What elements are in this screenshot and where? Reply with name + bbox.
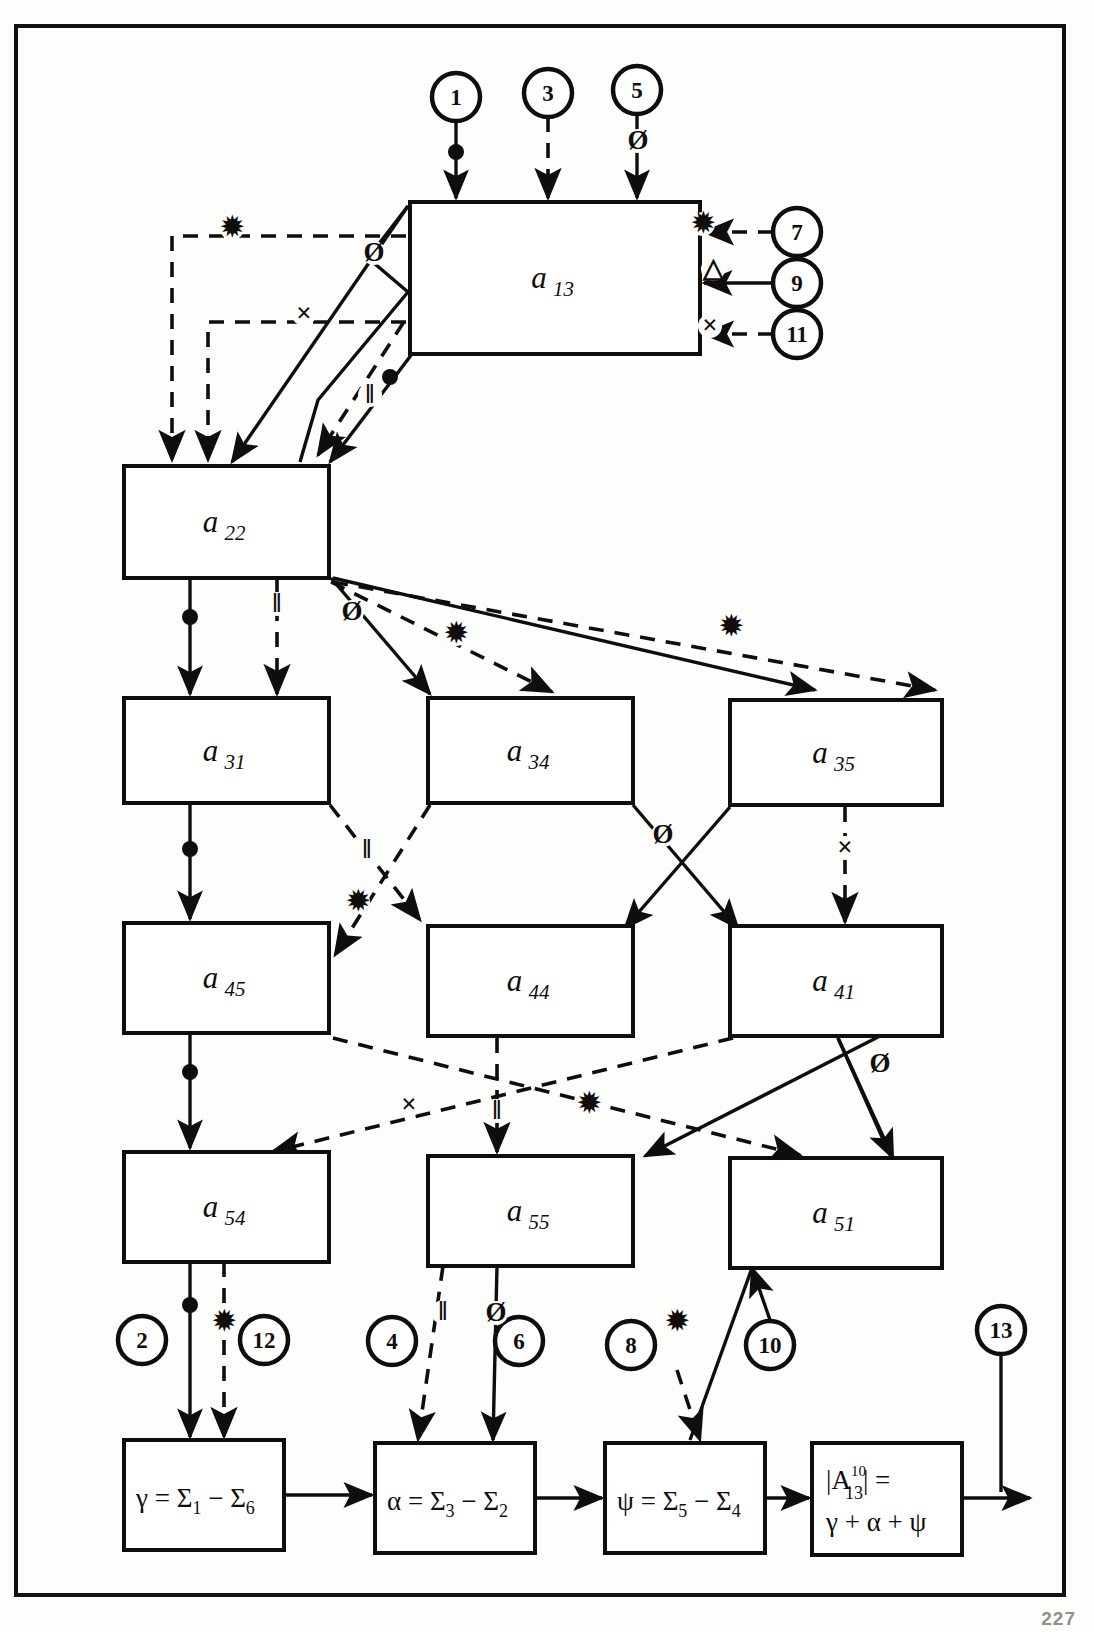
junction-dot-tag1 [448,144,464,160]
block-label: a [531,260,547,295]
process-block-a54[interactable]: a54 [124,1152,329,1262]
process-block-a35[interactable]: a35 [730,700,942,805]
marker-glyph: ✹ [691,208,715,238]
signal-tag-13[interactable]: 13 [977,1306,1025,1354]
marker-glyph: × [837,832,852,862]
edge-marker-phi: Ø [362,237,386,267]
process-block-a51[interactable]: a51 [730,1158,942,1268]
signal-tag-9[interactable]: 9 [773,259,821,307]
signal-tag-1[interactable]: 1 [432,73,480,121]
marker-glyph: ✹ [212,1306,236,1336]
marker-glyph: × [702,310,717,340]
process-block-a34[interactable]: a34 [428,698,633,803]
tag-number: 9 [791,271,803,296]
edge-marker-asterisk: ✹ [691,208,716,238]
edge-marker-asterisk: ✹ [665,1306,690,1336]
edge-marker-asterisk: ✹ [346,886,371,916]
process-block-a31[interactable]: a31 [124,698,329,803]
result-line-2: γ + α + ψ [825,1507,927,1537]
block-label: a [507,963,523,998]
tag-number: 8 [625,1333,637,1358]
tag-number: 5 [631,78,643,103]
edge-marker-asterisk: ✹ [220,212,245,242]
edge-a22-to-a35 [333,578,815,690]
marker-glyph: ✹ [577,1088,601,1118]
block-label: a [812,735,828,770]
marker-glyph: ✹ [346,886,370,916]
formula-block-result[interactable]: |A1013| =γ + α + ψ [812,1443,962,1555]
process-block-a13[interactable]: a13 [410,202,700,354]
diagram-canvas: a13a22a31a34a35a45a44a41a54a55a51 γ = Σ1… [0,0,1094,1632]
formula-block-alpha[interactable]: α = Σ3 − Σ2 [375,1443,535,1553]
block-label-subscript: 35 [833,752,855,776]
block-layer: a13a22a31a34a35a45a44a41a54a55a51 [124,202,942,1268]
marker-glyph: ✹ [719,611,743,641]
signal-tag-5[interactable]: 5 [613,66,661,114]
block-label-subscript: 31 [224,750,246,774]
marker-glyph: Ø [869,1048,890,1078]
block-label-subscript: 55 [529,1210,550,1234]
signal-tag-10[interactable]: 10 [746,1321,794,1369]
process-block-a44[interactable]: a44 [428,926,633,1036]
edge-marker-double-bar: ‖ [265,588,289,618]
marker-glyph: × [401,1089,416,1119]
edge-marker-phi: Ø [626,125,650,155]
edge-a35-to-a44 [625,807,730,928]
marker-glyph: Ø [627,125,648,155]
block-label-subscript: 44 [529,980,551,1004]
signal-tag-12[interactable]: 12 [240,1316,288,1364]
edge-marker-double-bar: ‖ [358,379,382,409]
edge-marker-phi: Ø [484,1297,508,1327]
junction-dot-a54 [182,1297,198,1313]
edge-a55-to-alpha-dashed [418,1266,443,1440]
marker-glyph: ‖ [493,1095,502,1125]
tag-number: 4 [386,1329,398,1354]
edge-tag10-to-a51 [752,1268,770,1320]
tag-number: 12 [253,1328,276,1353]
block-label-subscript: 34 [528,750,551,774]
signal-tag-3[interactable]: 3 [524,69,572,117]
edge-a22-to-a35-dashed [333,582,935,690]
marker-glyph: ‖ [366,379,375,409]
edge-marker-triangle: △ [701,253,725,283]
edge-marker-double-bar: ‖ [355,834,379,864]
junction-dot-a13-lower [382,369,398,385]
block-label: a [203,1189,219,1224]
marker-glyph: ‖ [273,588,282,618]
edge-tag8-to-psi [677,1370,700,1440]
marker-glyph: ✹ [665,1306,689,1336]
tag-number: 11 [786,322,808,347]
process-block-a41[interactable]: a41 [730,926,942,1036]
junction-dot-a22-a31 [182,609,198,625]
edge-a41-to-a54-dashed [272,1038,733,1152]
formula-block-gamma[interactable]: γ = Σ1 − Σ6 [124,1440,284,1550]
signal-tag-8[interactable]: 8 [607,1321,655,1369]
block-label: a [507,1193,523,1228]
tag-number: 2 [136,1328,148,1353]
block-label: a [203,960,219,995]
block-label-subscript: 22 [225,521,247,545]
edge-marker-asterisk: ✹ [444,618,469,648]
tag-number: 10 [759,1333,782,1358]
edge-marker-double-bar: ‖ [485,1095,509,1125]
block-label: a [203,733,219,768]
block-label: a [507,733,523,768]
block-label-subscript: 45 [225,977,246,1001]
edge-feedback-outer-to-a22 [172,236,406,460]
edge-marker-asterisk: ✹ [719,611,744,641]
block-label-subscript: 41 [834,980,855,1004]
process-block-a55[interactable]: a55 [428,1156,633,1266]
edge-a34-to-a41 [633,805,738,928]
signal-tag-2[interactable]: 2 [118,1316,166,1364]
formula-block-psi[interactable]: ψ = Σ5 − Σ4 [605,1443,765,1553]
block-label-subscript: 13 [553,277,574,301]
process-block-a22[interactable]: a22 [124,466,329,578]
signal-tag-11[interactable]: 11 [773,310,821,358]
process-block-a45[interactable]: a45 [124,923,329,1033]
tag-number: 3 [542,81,554,106]
signal-tag-4[interactable]: 4 [368,1317,416,1365]
block-label-subscript: 51 [834,1212,855,1236]
tag-number: 6 [513,1329,525,1354]
diagram-page: a13a22a31a34a35a45a44a41a54a55a51 γ = Σ1… [0,0,1094,1632]
signal-tag-7[interactable]: 7 [773,208,821,256]
